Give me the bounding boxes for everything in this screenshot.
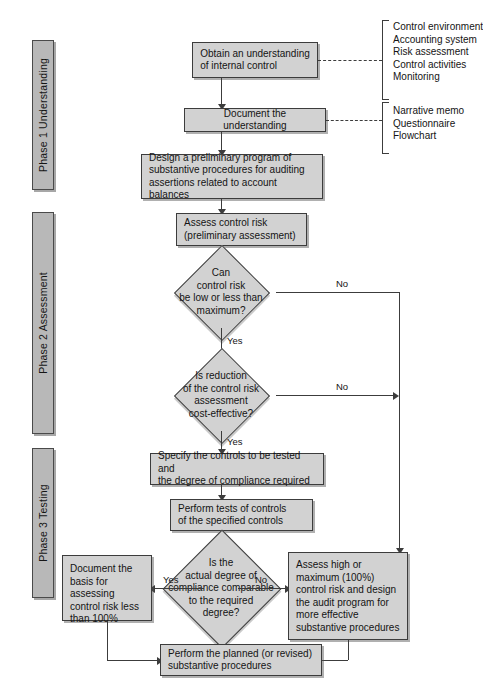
connector-assess-high-left (322, 660, 348, 661)
node-specify-controls: Specify the controls to be tested and th… (150, 453, 324, 485)
node-document-basis: Document the basis for assessing control… (62, 555, 152, 621)
annotation-item: Narrative memo (393, 105, 464, 118)
connector-decision3-no (238, 588, 288, 589)
edge-label-decision2-no: No (336, 381, 348, 392)
annotation-list-documentation: Narrative memo Questionnaire Flowchart (393, 105, 464, 143)
edge-label-decision1-yes: Yes (227, 335, 243, 346)
node-assess-high: Assess high or maximum (100%) control ri… (288, 552, 408, 640)
annotation-item: Questionnaire (393, 118, 464, 131)
connector-no-trunk (399, 292, 400, 552)
edge-label-decision1-no: No (336, 278, 348, 289)
annotation-bracket-understanding (382, 20, 389, 100)
phase-bar-phase2: Phase 2 Assessment (32, 212, 54, 434)
connector-document-basis-right (107, 660, 160, 661)
annotation-item: Control environment (393, 21, 483, 34)
edge-label-decision3-yes: Yes (163, 574, 179, 585)
node-document-basis-text: Document the basis for assessing control… (70, 563, 144, 626)
node-obtain-understanding-text: Obtain an understanding of internal cont… (200, 48, 310, 73)
annotation-item: Monitoring (393, 71, 483, 84)
edge-label-decision2-yes: Yes (227, 436, 243, 447)
annotation-connector-documentation (326, 120, 382, 121)
phase-bar-phase3: Phase 3 Testing (32, 448, 54, 598)
node-assess-control-risk: Assess control risk (preliminary assessm… (176, 213, 307, 246)
node-specify-controls-text: Specify the controls to be tested and th… (158, 450, 316, 488)
annotation-list-understanding: Control environment Accounting system Ri… (393, 21, 483, 84)
connector-decision1-no (276, 292, 400, 293)
node-obtain-understanding: Obtain an understanding of internal cont… (192, 42, 318, 78)
decision-reduction-cost-effective: Is reduction of the control risk assessm… (166, 359, 276, 431)
decision-control-risk-low: Can control risk be low or less than max… (166, 256, 276, 328)
node-design-preliminary: Design a preliminary program of substant… (141, 154, 323, 199)
connector-document-basis-down (107, 621, 108, 660)
node-perform-tests-text: Perform tests of controls of the specifi… (178, 503, 286, 528)
phase-bar-phase1: Phase 1 Understanding (32, 40, 54, 190)
node-assess-high-text: Assess high or maximum (100%) control ri… (296, 559, 399, 634)
annotation-item: Accounting system (393, 34, 483, 47)
node-design-preliminary-text: Design a preliminary program of substant… (149, 152, 315, 202)
annotation-bracket-documentation (382, 102, 389, 154)
node-perform-tests: Perform tests of controls of the specifi… (170, 499, 313, 531)
node-assess-control-risk-text: Assess control risk (preliminary assessm… (184, 217, 296, 242)
phase-bar-label-phase3: Phase 3 Testing (37, 484, 49, 562)
phase-bar-label-phase1: Phase 1 Understanding (37, 58, 49, 172)
annotation-item: Control activities (393, 59, 483, 72)
connector-decision3-yes (152, 588, 204, 589)
node-document-understanding: Document the understanding (184, 108, 326, 132)
annotation-item: Flowchart (393, 130, 464, 143)
node-perform-planned-text: Perform the planned (or revised) substan… (168, 648, 312, 673)
edge-label-decision3-no: No (255, 574, 267, 585)
annotation-connector-understanding (318, 60, 382, 61)
annotation-item: Risk assessment (393, 46, 483, 59)
connector-assess-high-down (348, 640, 349, 660)
connector-decision2-no (276, 395, 396, 396)
node-perform-planned: Perform the planned (or revised) substan… (160, 644, 322, 676)
phase-bar-label-phase2: Phase 2 Assessment (37, 272, 49, 374)
node-document-understanding-text: Document the understanding (192, 108, 318, 133)
